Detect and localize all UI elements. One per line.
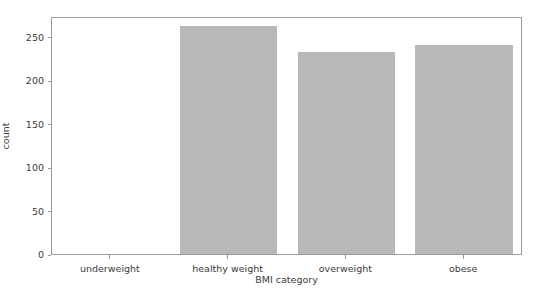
x-tick-mark <box>463 255 464 259</box>
x-tick-label: obese <box>449 263 477 274</box>
y-tick-mark <box>48 37 52 38</box>
y-tick-mark <box>48 168 52 169</box>
bars-layer <box>52 18 521 254</box>
bar-chart-figure: 050100150200250 underweighthealthy weigh… <box>0 0 537 300</box>
bar-obese <box>415 45 513 254</box>
x-tick-label: healthy weight <box>192 263 263 274</box>
y-tick-mark <box>48 81 52 82</box>
y-tick-label: 50 <box>32 205 44 219</box>
y-tick-label: 0 <box>38 248 44 262</box>
y-axis-title: count <box>0 123 11 150</box>
y-tick-label: 150 <box>26 118 44 132</box>
x-tick-mark <box>109 255 110 259</box>
y-tick-mark <box>48 211 52 212</box>
x-tick-label: underweight <box>80 263 140 274</box>
y-tick-label: 100 <box>26 161 44 175</box>
bar-healthy-weight <box>180 26 278 254</box>
y-tick-mark <box>48 124 52 125</box>
y-tick-label: 200 <box>26 74 44 88</box>
y-tick-mark <box>48 255 52 256</box>
x-tick-mark <box>345 255 346 259</box>
bar-overweight <box>298 52 396 254</box>
x-tick-label: overweight <box>319 263 372 274</box>
x-tick-mark <box>227 255 228 259</box>
x-axis-title: BMI category <box>51 274 522 285</box>
plot-area <box>51 17 522 255</box>
y-tick-label: 250 <box>26 31 44 45</box>
